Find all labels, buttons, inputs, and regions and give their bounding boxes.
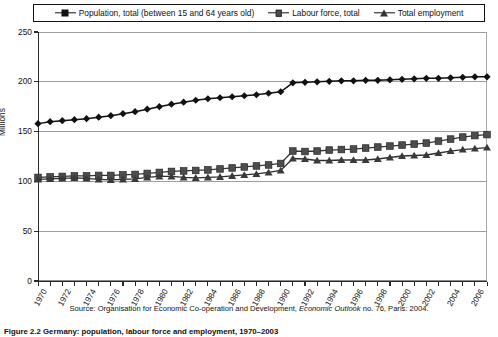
data-point — [71, 116, 78, 123]
legend-label-labour-force: Labour force, total — [292, 9, 360, 17]
data-point — [326, 147, 333, 154]
data-point — [47, 118, 54, 125]
data-point — [156, 103, 163, 110]
legend-item-total-employment: Total employment — [374, 8, 464, 18]
data-point — [374, 144, 381, 151]
caption-text: Germany: population, labour force and em… — [43, 328, 278, 336]
data-point — [253, 91, 260, 98]
data-point — [386, 76, 393, 83]
data-point — [192, 97, 199, 104]
series-line — [38, 135, 487, 178]
data-point — [131, 108, 138, 115]
legend-label-population: Population, total (between 15 and 64 yea… — [79, 9, 255, 17]
data-point — [229, 165, 236, 172]
data-point — [119, 110, 126, 117]
data-point — [144, 106, 151, 113]
source-suffix: no. 76, Paris: 2004. — [361, 304, 429, 313]
figure-container: Population, total (between 15 and 64 yea… — [0, 0, 498, 337]
data-point — [423, 140, 430, 147]
data-point — [435, 138, 442, 145]
data-series-layer — [0, 26, 498, 288]
data-point — [362, 77, 369, 84]
data-point — [471, 73, 478, 80]
data-point — [411, 75, 418, 82]
legend-item-population: Population, total (between 15 and 64 yea… — [55, 8, 255, 18]
data-point — [168, 101, 175, 108]
plot-area: 050100150200250 Millions 197019721974197… — [0, 26, 498, 288]
source-note: Source: Organisation for Economic Co-ope… — [0, 304, 498, 313]
source-prefix: Source: Organisation for Economic Co-ope… — [69, 304, 299, 313]
data-point — [301, 79, 308, 86]
diamond-marker-icon — [55, 8, 76, 18]
data-point — [314, 148, 321, 155]
series-3 — [34, 144, 491, 183]
data-point — [265, 162, 272, 169]
triangle-marker-icon — [374, 8, 395, 18]
data-point — [350, 146, 357, 153]
data-point — [59, 117, 66, 124]
data-point — [180, 168, 187, 175]
square-marker-icon — [268, 8, 289, 18]
data-point — [302, 148, 309, 155]
figure-caption: Figure 2.2 Germany: population, labour f… — [4, 328, 404, 337]
data-point — [374, 77, 381, 84]
data-point — [387, 143, 394, 150]
data-point — [241, 92, 248, 99]
data-point — [362, 145, 369, 152]
data-point — [83, 115, 90, 122]
series-line — [38, 77, 487, 124]
data-point — [314, 78, 321, 85]
source-publication: Economic Outlook — [299, 304, 361, 313]
data-point — [107, 112, 114, 119]
legend-item-labour-force: Labour force, total — [268, 8, 360, 18]
legend-label-total-employment: Total employment — [398, 9, 464, 17]
data-point — [338, 77, 345, 84]
data-point — [350, 77, 357, 84]
data-point — [229, 93, 236, 100]
data-point — [484, 131, 491, 138]
data-point — [435, 75, 442, 82]
data-point — [217, 166, 224, 173]
data-point — [95, 114, 102, 121]
data-point — [277, 160, 284, 167]
data-point — [459, 74, 466, 81]
caption-number: Figure 2.2 — [4, 328, 41, 336]
data-point — [399, 142, 406, 149]
data-point — [338, 146, 345, 153]
data-point — [290, 148, 297, 155]
chart-legend: Population, total (between 15 and 64 yea… — [33, 4, 485, 22]
data-point — [398, 76, 405, 83]
data-point — [411, 141, 418, 148]
data-point — [459, 134, 466, 141]
data-point — [34, 120, 41, 127]
data-point — [205, 167, 212, 174]
data-point — [326, 78, 333, 85]
data-point — [216, 94, 223, 101]
data-point — [253, 163, 260, 170]
data-point — [483, 73, 490, 80]
data-point — [241, 164, 248, 171]
data-point — [204, 95, 211, 102]
data-point — [180, 99, 187, 106]
data-point — [265, 90, 272, 97]
data-point — [447, 74, 454, 81]
data-point — [447, 136, 454, 143]
data-point — [192, 167, 199, 174]
series-1 — [34, 73, 490, 127]
data-point — [423, 75, 430, 82]
data-point — [472, 132, 479, 139]
